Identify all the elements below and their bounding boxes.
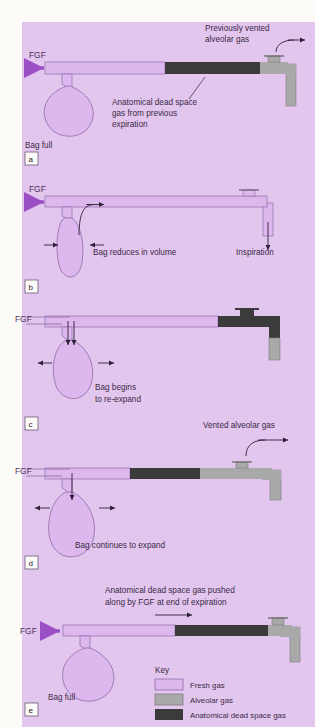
panel-c-bag-state-line2: to re-expand <box>95 395 141 404</box>
panel-c-vertical-limb <box>269 338 280 360</box>
panel-e-tube-fresh <box>63 625 175 636</box>
panel-a-tube-alveolar <box>260 62 288 74</box>
panel-c-bag <box>53 340 92 399</box>
panel-d-tube-deadspace <box>130 468 200 479</box>
panel-a: FGF Previously vented alveolar gas Anato… <box>25 24 305 165</box>
key-label-alveolar-gas: Alveolar gas <box>190 696 233 705</box>
panel-a-prev-vented-line2: alveolar gas <box>205 35 249 44</box>
panel-c-tube-fresh <box>45 316 218 327</box>
panel-e-valve <box>272 618 284 625</box>
panel-a-deadspace-line1: Anatomical dead space <box>112 98 198 107</box>
panel-a-leader-deadspace <box>189 77 205 99</box>
panel-b-bag-state: Bag reduces in volume <box>93 248 177 257</box>
panel-a-bag <box>44 86 93 136</box>
panel-d-vent-curve <box>246 440 265 456</box>
panel-e-fgf-label: FGF <box>20 626 37 636</box>
panel-d-vented-label: Vented alveolar gas <box>203 421 275 430</box>
panel-d-valve <box>236 462 248 468</box>
panel-b-flow-curve <box>79 205 92 235</box>
panel-e-tube-deadspace <box>175 625 268 636</box>
key-swatch-fresh-gas <box>155 679 183 690</box>
panel-b-tube <box>45 196 267 207</box>
panel-a-deadspace-line2: gas from previous <box>112 109 177 118</box>
panel-a-deadspace-line3: expiration <box>112 120 148 129</box>
key-legend: Key Fresh gas Alveolar gas Anatomical de… <box>155 666 286 720</box>
key-title: Key <box>155 666 170 675</box>
panel-b-valve <box>243 190 255 196</box>
panel-d: FGF Vented alveolar gas Bag continues to… <box>15 421 288 569</box>
panel-e-tube-alveolar <box>268 625 292 636</box>
panel-a-tube-deadspace <box>165 62 260 74</box>
figure-root: FGF Previously vented alveolar gas Anato… <box>0 0 315 727</box>
panel-c-bag-state-line1: Bag begins <box>95 383 136 392</box>
panel-b: FGF Bag reduces in volume Inspiration b <box>25 184 274 293</box>
key-label-fresh-gas: Fresh gas <box>190 681 225 690</box>
panel-d-tube-alveolar <box>200 468 272 479</box>
panel-c-label: c <box>29 420 33 429</box>
panel-c-fgf-label: FGF <box>15 314 32 324</box>
panel-b-label: b <box>29 283 34 292</box>
panel-c-valve <box>240 309 254 316</box>
panel-b-inspiration-label: Inspiration <box>236 248 274 257</box>
breathing-circuit-diagram: FGF Previously vented alveolar gas Anato… <box>0 0 315 727</box>
panel-e-label: e <box>29 706 34 715</box>
panel-d-tube-fresh <box>45 468 130 479</box>
panel-e-pushed-line2: along by FGF at end of expiration <box>105 598 227 607</box>
panel-c: FGF Bag begins to re-expand c <box>15 309 280 430</box>
panel-a-fgf-label: FGF <box>29 50 46 60</box>
panel-e-pushed-line1: Anatomical dead space gas pushed <box>105 586 235 595</box>
panel-d-label: d <box>29 559 33 568</box>
panel-a-tube-fresh <box>45 62 165 74</box>
panel-a-bag-state: Bag full <box>25 141 52 150</box>
panel-a-label: a <box>29 155 34 164</box>
panel-e-bag-state: Bag full <box>48 693 75 702</box>
key-swatch-dead-space-gas <box>155 709 183 720</box>
panel-d-bag-state: Bag continues to expand <box>75 541 166 550</box>
key-label-dead-space-gas: Anatomical dead space gas <box>190 711 286 720</box>
panel-a-vent-curve <box>276 40 294 52</box>
panel-a-valve <box>268 56 280 62</box>
panel-d-fgf-label: FGF <box>15 466 32 476</box>
panel-b-fgf-label: FGF <box>29 184 46 194</box>
key-swatch-alveolar-gas <box>155 694 183 705</box>
panel-a-prev-vented-line1: Previously vented <box>205 24 270 33</box>
panel-c-tube-deadspace <box>218 316 280 327</box>
